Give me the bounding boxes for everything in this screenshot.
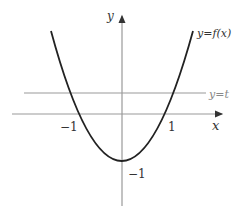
tick-x-1: 1 — [168, 120, 176, 134]
x-axis-label: x — [212, 118, 220, 133]
function-graph: y x y=f(x) y=t −1 1 −1 — [0, 0, 242, 213]
curve-label: y=f(x) — [196, 27, 231, 40]
tick-y-neg1: −1 — [128, 167, 146, 181]
y-axis-label: y — [106, 9, 114, 23]
tick-x-neg1: −1 — [60, 120, 78, 134]
line-label: y=t — [208, 88, 229, 101]
